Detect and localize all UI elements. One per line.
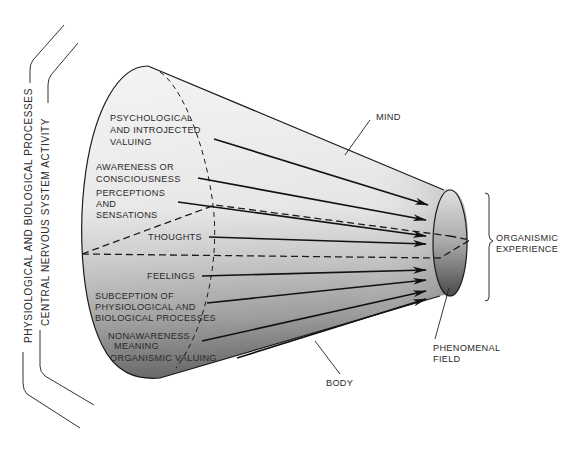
label-body: BODY bbox=[326, 378, 353, 388]
phenomenal-field-ellipse bbox=[433, 190, 467, 296]
label-phenomenal-field: PHENOMENAL FIELD bbox=[433, 343, 503, 364]
organismic-experience-brace bbox=[485, 193, 493, 301]
side-labels: PHYSIOLOGICAL AND BIOLOGICAL PROCESSES C… bbox=[23, 88, 51, 343]
label-organismic-valuing: ORGANISMIC VALUING bbox=[110, 353, 217, 363]
label-thoughts: THOUGHTS bbox=[148, 232, 202, 242]
label-central-nervous-system: CENTRAL NERVOUS SYSTEM ACTIVITY bbox=[40, 118, 51, 326]
outer-bracket-line bbox=[30, 25, 64, 83]
label-feelings: FEELINGS bbox=[147, 271, 195, 281]
label-organismic-experience: ORGANISMIC EXPERIENCE bbox=[496, 233, 561, 254]
label-mind: MIND bbox=[376, 112, 401, 122]
cone-diagram: PSYCHOLOGICAL AND INTROJECTED VALUING AW… bbox=[0, 0, 584, 451]
body-leader bbox=[315, 341, 340, 374]
label-physiological-biological: PHYSIOLOGICAL AND BIOLOGICAL PROCESSES bbox=[23, 88, 34, 343]
inner-bracket-line bbox=[48, 43, 78, 103]
mind-leader bbox=[345, 120, 370, 155]
